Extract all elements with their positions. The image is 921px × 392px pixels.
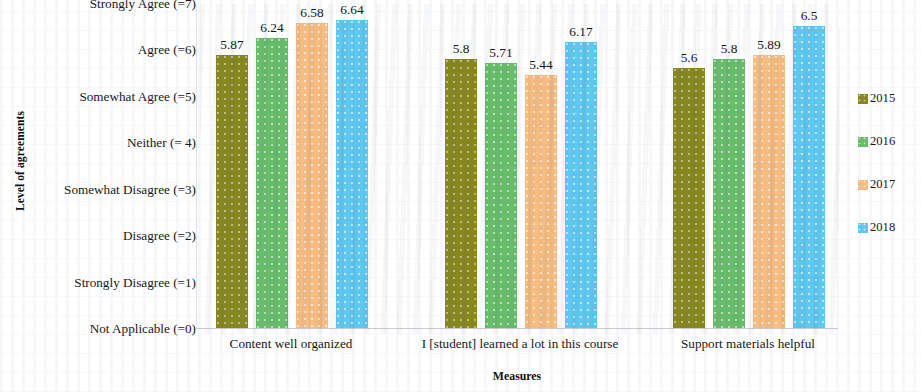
bar-chart: Level of agreements Strongly Agree (=7)A… [0,0,921,392]
bar-2018-2[interactable]: 6.17 [565,3,597,328]
bar-rect [216,55,248,328]
bar-rect [673,68,705,328]
y-axis-title: Level of agreements [14,91,26,231]
bar-rect [336,20,368,328]
legend-swatch-2015 [858,94,868,104]
bar-2015-2[interactable]: 5.8 [445,3,477,328]
legend-label: 2018 [870,221,895,234]
bar-2015-1[interactable]: 5.87 [216,3,248,328]
bar-2015-3[interactable]: 5.6 [673,3,705,328]
y-axis-tick-labels: Strongly Agree (=7)Agree (=6)Somewhat Ag… [0,0,196,392]
bar-rect [753,55,785,328]
y-axis-tick-label: Agree (=6) [11,43,196,56]
bar-2017-3[interactable]: 5.89 [753,3,785,328]
y-axis-tick-label: Somewhat Disagree (=3) [11,183,196,196]
legend-swatch-2018 [858,223,868,233]
bar-2017-2[interactable]: 5.44 [525,3,557,328]
legend-item-2018[interactable]: 2018 [858,221,895,234]
legend-item-2017[interactable]: 2017 [858,178,895,191]
bar-value-label: 5.87 [220,38,243,52]
bar-rect [525,75,557,328]
y-axis-tick-label: Strongly Agree (=7) [11,0,196,10]
bar-value-label: 5.8 [453,42,470,56]
y-axis-tick-label: Not Applicable (=0) [11,322,196,335]
bar-rect [713,59,745,328]
bar-rect [485,63,517,328]
bar-value-label: 6.64 [340,3,363,17]
legend-label: 2017 [870,178,895,191]
bar-value-label: 6.24 [260,21,283,35]
bar-value-label: 5.89 [757,38,780,52]
bar-value-label: 6.58 [300,6,323,20]
y-axis-tick-label: Somewhat Agree (=5) [11,90,196,103]
bar-value-label: 6.5 [801,9,818,23]
legend-label: 2016 [870,135,895,148]
legend-item-2015[interactable]: 2015 [858,92,895,105]
y-axis-tick-label: Strongly Disagree (=1) [11,276,196,289]
bar-2016-2[interactable]: 5.71 [485,3,517,328]
bar-2016-3[interactable]: 5.8 [713,3,745,328]
legend-swatch-2016 [858,137,868,147]
bar-value-label: 5.8 [721,42,738,56]
bar-value-label: 5.44 [529,58,552,72]
plot-area: 5.876.246.586.645.85.715.446.175.65.85.8… [196,4,838,329]
legend-label: 2015 [870,92,895,105]
bar-2018-3[interactable]: 6.5 [793,3,825,328]
bar-rect [565,42,597,328]
x-axis-title: Measures [196,369,838,384]
y-axis-tick-label: Neither (= 4) [11,136,196,149]
bar-rect [793,26,825,328]
y-axis-tick-label: Disagree (=2) [11,229,196,242]
legend-item-2016[interactable]: 2016 [858,135,895,148]
bar-rect [256,38,288,328]
bar-group: 5.65.85.896.5 [673,3,825,328]
bar-rect [296,23,328,329]
legend-swatch-2017 [858,180,868,190]
x-axis-category-label: Support materials helpful [598,336,898,351]
bar-rect [445,59,477,328]
bar-group: 5.85.715.446.17 [445,3,597,328]
bar-2017-1[interactable]: 6.58 [296,3,328,328]
bar-value-label: 5.6 [681,51,698,65]
bar-2018-1[interactable]: 6.64 [336,3,368,328]
bar-2016-1[interactable]: 6.24 [256,3,288,328]
bar-group: 5.876.246.586.64 [216,3,368,328]
bar-value-label: 6.17 [569,25,592,39]
bar-value-label: 5.71 [489,46,512,60]
